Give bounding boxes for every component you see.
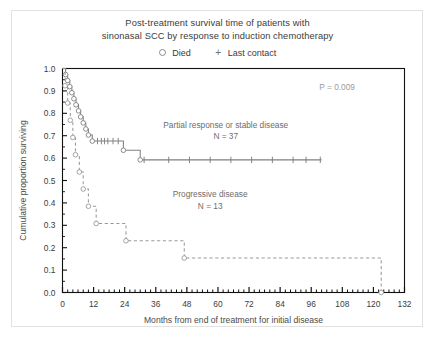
death-marker	[81, 187, 86, 192]
series-line-1	[63, 69, 322, 160]
x-tick-label: 36	[151, 299, 161, 309]
plot-canvas: 0.00.10.20.30.40.50.60.70.80.91.00122436…	[0, 0, 435, 338]
chart-annotation: Partial response or stable disease	[163, 120, 288, 130]
x-tick-label: 132	[398, 299, 412, 309]
y-tick-label: 0.7	[44, 131, 56, 141]
death-marker	[86, 133, 91, 138]
death-marker	[78, 115, 83, 120]
death-marker	[72, 96, 77, 101]
death-marker	[76, 109, 81, 114]
plot-frame	[63, 69, 405, 293]
y-tick-label: 0.3	[44, 220, 56, 230]
y-tick-label: 0.8	[44, 108, 56, 118]
survival-chart-figure: Post-treatment survival time of patients…	[0, 0, 435, 338]
death-marker	[94, 221, 99, 226]
death-marker	[90, 139, 95, 144]
y-tick-label: 0.5	[44, 176, 56, 186]
chart-annotation: N = 13	[198, 201, 223, 211]
x-tick-label: 60	[213, 299, 223, 309]
death-marker	[73, 152, 78, 157]
x-tick-label: 12	[89, 299, 99, 309]
death-marker	[65, 78, 70, 83]
death-marker	[68, 118, 73, 123]
x-tick-label: 72	[244, 299, 254, 309]
death-marker	[65, 101, 70, 106]
death-marker	[182, 256, 187, 261]
x-tick-label: 48	[182, 299, 192, 309]
y-tick-label: 0.9	[44, 86, 56, 96]
death-marker	[77, 170, 82, 175]
x-tick-label: 0	[60, 299, 65, 309]
x-tick-label: 120	[366, 299, 380, 309]
x-tick-label: 96	[307, 299, 317, 309]
death-marker	[124, 238, 129, 243]
death-marker	[138, 158, 143, 163]
x-axis-title: Months from end of treatment for initial…	[144, 315, 323, 325]
y-tick-label: 0.2	[44, 243, 56, 253]
death-marker	[63, 83, 68, 88]
chart-annotation: N = 37	[213, 131, 238, 141]
death-marker	[121, 148, 126, 153]
x-tick-label: 84	[275, 299, 285, 309]
y-axis-title: Cumulative proportion surviving	[18, 120, 28, 241]
series-line-2	[63, 69, 382, 293]
death-marker	[84, 127, 89, 132]
chart-annotation: P = 0.009	[319, 82, 355, 92]
x-tick-label: 24	[120, 299, 130, 309]
y-tick-label: 0.4	[44, 198, 56, 208]
death-marker	[379, 290, 384, 295]
death-marker	[71, 135, 76, 140]
x-tick-label: 108	[335, 299, 349, 309]
chart-annotation: Progressive disease	[173, 189, 248, 199]
y-tick-label: 1.0	[44, 64, 56, 74]
y-tick-label: 0.6	[44, 153, 56, 163]
death-marker	[70, 90, 75, 95]
death-marker	[81, 121, 86, 126]
y-tick-label: 0.1	[44, 265, 56, 275]
y-tick-label: 0.0	[44, 288, 56, 298]
death-marker	[74, 102, 79, 107]
death-marker	[86, 204, 91, 209]
